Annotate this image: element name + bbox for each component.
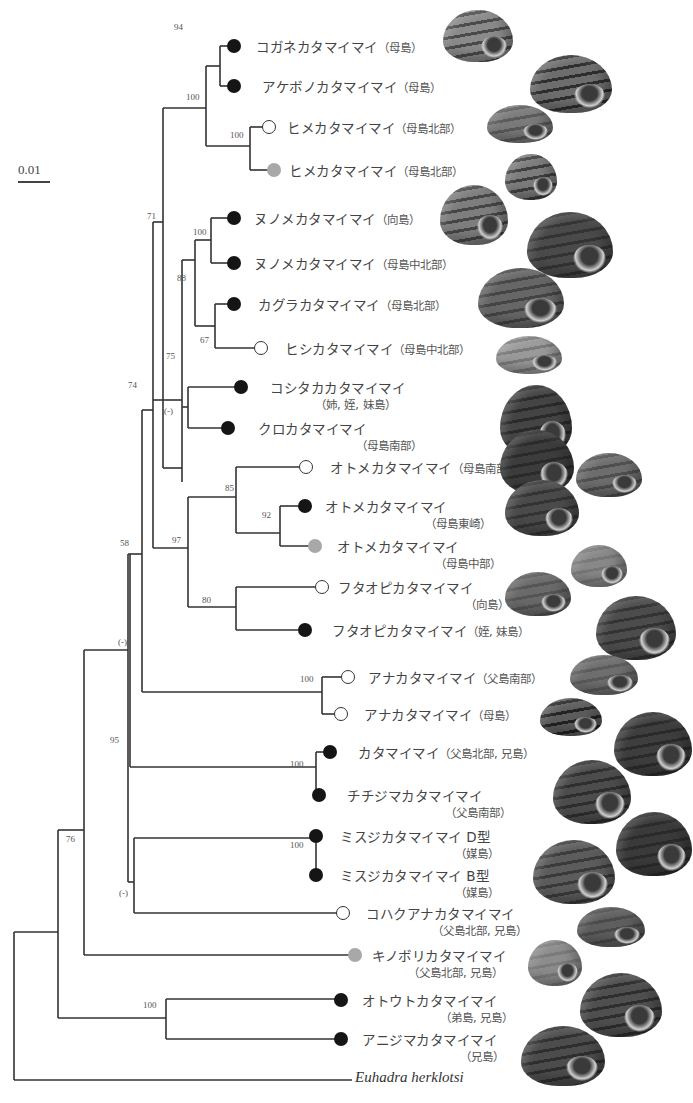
taxon-label: フタオピカタマイマイ (338, 577, 473, 597)
taxon-locality: （姉, 姪, 妹島） (315, 396, 396, 412)
taxon-locality: （母島） (472, 709, 516, 723)
scale-bar (18, 181, 50, 183)
gray-circle-marker-icon (348, 948, 362, 962)
bootstrap-value: 80 (202, 595, 211, 605)
bootstrap-value: (-) (164, 406, 173, 416)
snail-shell-image (528, 940, 582, 986)
taxon-name: ヒメカタマイマイ (287, 120, 395, 136)
taxon-locality: （母島北部） (395, 122, 461, 136)
taxon-label: ヌノメカタマイマイ（母島中北部） (254, 253, 453, 273)
snail-shell-image (487, 105, 553, 143)
white-circle-marker-icon (336, 906, 350, 920)
taxon-name: ヒメカタマイマイ (289, 163, 397, 179)
taxon-name: オトウトカタマイマイ (362, 993, 497, 1009)
gray-circle-marker-icon (308, 539, 322, 553)
taxon-name: アナカタマイマイ (368, 670, 476, 686)
taxon-locality: （父島北部, 兄島） (439, 747, 534, 761)
bootstrap-value: 85 (225, 483, 234, 493)
taxon-label: コガネカタマイマイ（母島） (256, 36, 422, 56)
bootstrap-value: 94 (174, 22, 183, 32)
taxon-name: ヌノメカタマイマイ (254, 256, 376, 272)
black-circle-marker-icon (334, 1032, 348, 1046)
taxon-label: キノボリカタマイマイ (372, 945, 506, 965)
taxon-label: オトウトカタマイマイ (362, 990, 497, 1010)
bootstrap-value: 100 (143, 1000, 157, 1010)
taxon-label: ミスジカタマイマイ D型 (340, 826, 491, 846)
taxon-name: カグラカタマイマイ (258, 297, 380, 313)
black-circle-marker-icon (298, 623, 312, 637)
bootstrap-value: 100 (290, 840, 304, 850)
taxon-label: コハクアナカタマイマイ (366, 903, 515, 923)
black-circle-marker-icon (234, 380, 248, 394)
taxon-locality: （母島中北部） (376, 258, 453, 272)
taxon-locality: （父島南部） (476, 672, 542, 686)
taxon-locality: （向島） (376, 213, 420, 227)
taxon-locality: （母島） (397, 81, 441, 95)
snail-shell-image (577, 907, 645, 947)
snail-shell-image (505, 572, 571, 616)
black-circle-marker-icon (298, 499, 312, 513)
taxon-name: オトメカタマイマイ (325, 499, 447, 515)
black-circle-marker-icon (309, 829, 323, 843)
taxon-label: ヒメカタマイマイ（母島北部） (289, 160, 463, 180)
taxon-name: アナカタマイマイ (364, 707, 472, 723)
taxon-name: ヌノメカタマイマイ (254, 211, 376, 227)
bootstrap-value: 58 (120, 538, 129, 548)
taxon-label: アナカタマイマイ（父島南部） (368, 667, 542, 687)
snail-shell-image (505, 154, 557, 200)
snail-shell-image (576, 453, 642, 497)
black-circle-marker-icon (312, 788, 326, 802)
taxon-label: コシタカカタマイマイ (270, 377, 405, 397)
taxon-locality: （兄島） (460, 1048, 504, 1064)
taxon-name: クロカタマイマイ (258, 421, 366, 437)
taxon-locality: （母島中北部） (393, 343, 470, 357)
taxon-locality: （姪, 妹島） (467, 625, 529, 639)
taxon-label: カグラカタマイマイ（母島北部） (258, 294, 446, 314)
snail-shell-image (570, 655, 638, 695)
taxon-name: コガネカタマイマイ (256, 39, 378, 55)
taxon-locality: （母島北部） (397, 165, 463, 179)
outgroup-label: Euhadra herklotsi (355, 1069, 464, 1086)
bootstrap-value: 100 (230, 130, 244, 140)
black-circle-marker-icon (221, 421, 235, 435)
white-circle-marker-icon (334, 707, 348, 721)
bootstrap-value: 71 (147, 211, 156, 221)
taxon-name: ミスジカタマイマイ B型 (340, 868, 490, 884)
taxon-locality: （父島北部, 兄島） (432, 922, 527, 938)
bootstrap-value: 75 (166, 351, 175, 361)
taxon-name: オトメカタマイマイ (337, 539, 459, 555)
taxon-label: ミスジカタマイマイ B型 (340, 865, 490, 885)
taxon-name: キノボリカタマイマイ (372, 948, 506, 964)
gray-circle-marker-icon (267, 163, 281, 177)
bootstrap-value: 76 (66, 834, 75, 844)
snail-shell-image (540, 698, 602, 736)
taxon-label: ヒメカタマイマイ（母島北部） (287, 117, 461, 137)
taxon-label: オトメカタマイマイ (337, 536, 459, 556)
bootstrap-value: 92 (262, 510, 271, 520)
white-circle-marker-icon (341, 670, 355, 684)
scale-bar-label: 0.01 (18, 162, 41, 178)
bootstrap-value: 88 (177, 273, 186, 283)
taxon-name: フタオピカタマイマイ (338, 580, 473, 596)
bootstrap-value: 100 (186, 92, 200, 102)
taxon-name: コハクアナカタマイマイ (366, 906, 515, 922)
taxon-name: アケボノカタマイマイ (262, 79, 397, 95)
taxon-label: オトメカタマイマイ（母島南部） (330, 457, 518, 477)
bootstrap-value: 95 (110, 735, 119, 745)
bootstrap-value: 100 (300, 674, 314, 684)
taxon-name: チチジマカタマイマイ (347, 788, 482, 804)
bootstrap-value: 100 (193, 227, 207, 237)
taxon-name: ミスジカタマイマイ D型 (340, 829, 491, 845)
white-circle-marker-icon (262, 120, 276, 134)
black-circle-marker-icon (227, 39, 241, 53)
bootstrap-value: 74 (128, 380, 137, 390)
taxon-label: ヌノメカタマイマイ（向島） (254, 208, 420, 228)
taxon-label: フタオピカタマイマイ（姪, 妹島） (332, 620, 529, 640)
taxon-label: アケボノカタマイマイ（母島） (262, 76, 441, 96)
taxon-locality: （弟島, 兄島） (440, 1009, 513, 1025)
black-circle-marker-icon (309, 868, 323, 882)
taxon-locality: （母島） (378, 41, 422, 55)
taxon-name: ヒシカタマイマイ (285, 341, 393, 357)
taxon-locality: （向島） (465, 596, 509, 612)
black-circle-marker-icon (227, 79, 241, 93)
